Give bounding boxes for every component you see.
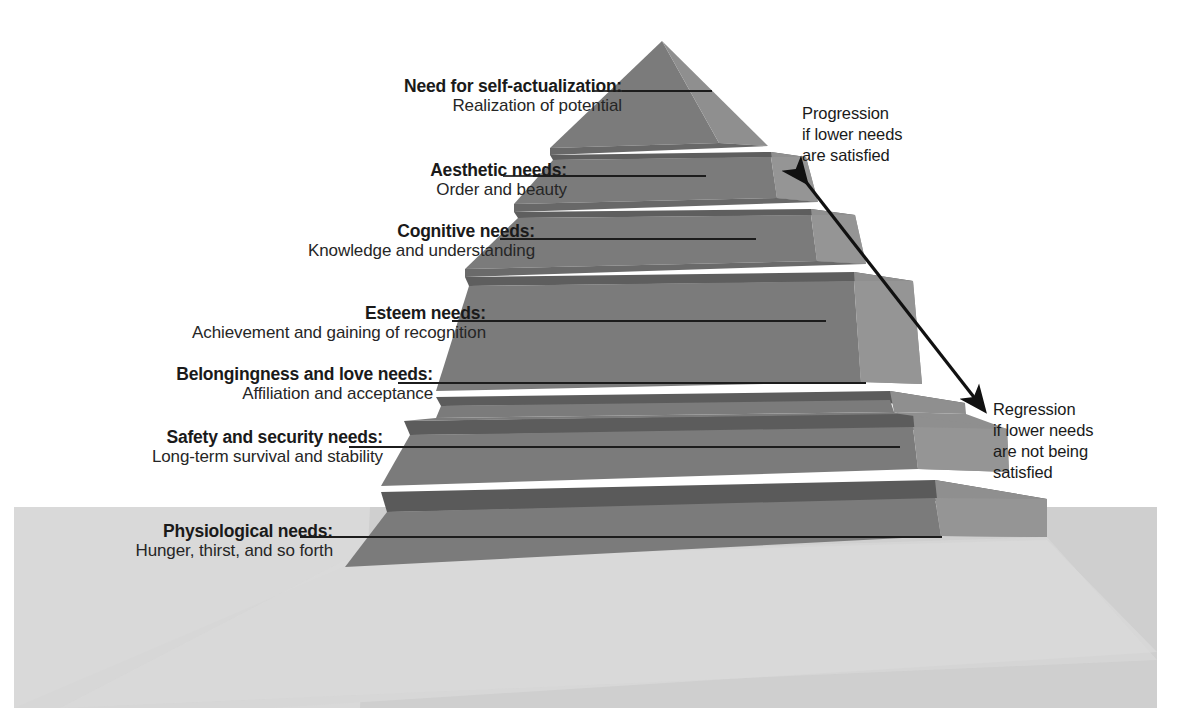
level-subtitle-esteem: Achievement and gaining of recognition: [192, 323, 486, 343]
tier4-front-face: [436, 281, 861, 391]
tier4-right-shade: [854, 281, 922, 384]
level-title-esteem: Esteem needs:: [192, 303, 486, 323]
level-title-physiological: Physiological needs:: [135, 521, 333, 541]
tier6-front-face: [381, 427, 918, 486]
level-label-physiological: Physiological needs: Hunger, thirst, and…: [135, 521, 333, 561]
level-title-aesthetic: Aesthetic needs:: [430, 160, 567, 180]
level-subtitle-belongingness: Affiliation and acceptance: [176, 384, 433, 404]
level-label-self-actualization: Need for self-actualization: Realization…: [404, 76, 622, 116]
level-label-safety: Safety and security needs: Long-term sur…: [152, 427, 383, 467]
level-subtitle-cognitive: Knowledge and understanding: [308, 241, 535, 261]
tier5-right-face: [890, 391, 966, 414]
level-title-self-actualization: Need for self-actualization:: [404, 76, 622, 96]
level-subtitle-aesthetic: Order and beauty: [430, 180, 567, 200]
level-label-belongingness: Belongingness and love needs: Affiliatio…: [176, 364, 433, 404]
level-subtitle-safety: Long-term survival and stability: [152, 447, 383, 467]
level-title-safety: Safety and security needs:: [152, 427, 383, 447]
annotation-progression: Progression if lower needs are satisfied: [802, 103, 902, 166]
level-title-belongingness: Belongingness and love needs:: [176, 364, 433, 384]
pyramid-tier-esteem: [436, 272, 922, 391]
level-label-cognitive: Cognitive needs: Knowledge and understan…: [308, 221, 535, 261]
maslow-pyramid-diagram: Need for self-actualization: Realization…: [0, 0, 1183, 718]
level-title-cognitive: Cognitive needs:: [308, 221, 535, 241]
level-label-aesthetic: Aesthetic needs: Order and beauty: [430, 160, 567, 200]
tier7-right-shade: [935, 498, 1047, 537]
level-subtitle-physiological: Hunger, thirst, and so forth: [135, 541, 333, 561]
level-subtitle-self-actualization: Realization of potential: [404, 96, 622, 116]
pyramid-tier-safety: [381, 413, 1009, 486]
annotation-regression: Regression if lower needs are not being …: [993, 399, 1093, 483]
level-label-esteem: Esteem needs: Achievement and gaining of…: [192, 303, 486, 343]
